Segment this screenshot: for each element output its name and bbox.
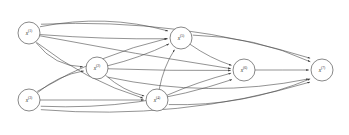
graph-canvas: x(1)x(2)x(3)x(4)x(5)x(6)x(7) <box>0 0 349 135</box>
graph-figure: x(1)x(2)x(3)x(4)x(5)x(6)x(7) <box>0 0 349 135</box>
node-layer: x(1)x(2)x(3)x(4)x(5)x(6)x(7) <box>18 22 333 111</box>
node-circle[interactable] <box>18 22 40 44</box>
node-circle[interactable] <box>311 59 333 81</box>
node-circle[interactable] <box>233 59 255 81</box>
graph-edge <box>159 50 174 90</box>
graph-node[interactable]: x(4) <box>146 89 168 111</box>
node-circle[interactable] <box>146 89 168 111</box>
graph-node[interactable]: x(7) <box>311 59 333 81</box>
node-circle[interactable] <box>170 27 192 49</box>
graph-edge <box>193 35 311 62</box>
graph-edge <box>37 71 83 93</box>
graph-node[interactable]: x(2) <box>86 57 108 79</box>
graph-edge <box>40 21 168 31</box>
node-circle[interactable] <box>86 57 108 79</box>
graph-edge <box>167 73 231 95</box>
graph-edge <box>41 82 310 112</box>
graph-node[interactable]: x(6) <box>233 59 255 81</box>
graph-node[interactable]: x(5) <box>170 27 192 49</box>
graph-edge <box>40 35 168 39</box>
graph-edge <box>108 69 231 71</box>
graph-node[interactable]: x(1) <box>18 22 40 44</box>
graph-edge <box>108 44 169 66</box>
graph-edge <box>190 44 232 65</box>
node-circle[interactable] <box>18 89 40 111</box>
graph-edge <box>36 43 83 67</box>
graph-edge <box>41 80 232 107</box>
graph-edge <box>105 75 144 96</box>
graph-node[interactable]: x(3) <box>18 89 40 111</box>
